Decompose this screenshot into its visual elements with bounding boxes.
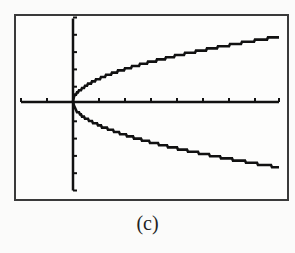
- lower-branch: [73, 101, 279, 167]
- figure-caption: (c): [0, 212, 295, 235]
- upper-branch: [73, 37, 279, 101]
